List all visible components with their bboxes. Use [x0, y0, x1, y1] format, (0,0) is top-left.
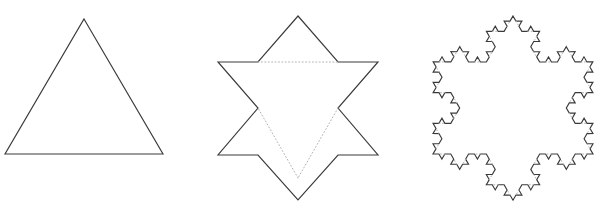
figure-background	[0, 0, 599, 214]
koch-snowflake-figure	[0, 0, 599, 214]
